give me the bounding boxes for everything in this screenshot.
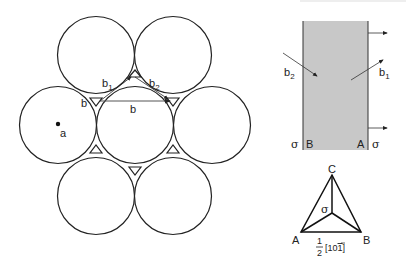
- label-C: C: [328, 163, 336, 175]
- label-sigma-left: σ: [291, 138, 299, 151]
- label-sigma-right: σ: [372, 138, 380, 151]
- fraction-numerator: 1: [317, 236, 322, 246]
- interstice-triangle: [167, 98, 179, 106]
- stacking-fault-panel: b2 b1 σ B A σ: [283, 21, 390, 151]
- label-b2: b2: [284, 66, 295, 81]
- stacking-fault-region: [303, 21, 368, 150]
- thompson-triangle: C A B σ 1 2 [101]: [292, 163, 370, 258]
- circle-top-left: [58, 17, 135, 94]
- label-b1: b1: [379, 66, 390, 81]
- atom-position-a-dot: [56, 122, 60, 126]
- interstice-triangle: [129, 167, 141, 175]
- label-a: a: [60, 127, 67, 139]
- circle-right: [174, 87, 251, 164]
- direction-vector: [101]: [325, 243, 345, 253]
- label-b-center: b: [130, 103, 136, 115]
- label-b-left: b: [81, 97, 87, 109]
- circle-bottom-right: [135, 158, 212, 235]
- interstice-triangle: [90, 98, 102, 106]
- circle-center: [97, 87, 174, 164]
- interstice-triangle: [90, 145, 102, 153]
- diagram-canvas: b1 b2 b b a b2 b1 σ B A σ C A B σ 1 2 [1…: [0, 0, 406, 264]
- triangle-outline: [301, 175, 361, 232]
- label-A: A: [292, 234, 300, 246]
- label-B: B: [363, 234, 370, 246]
- fraction-denominator: 2: [317, 248, 322, 258]
- hex-packing: b1 b2 b b a: [20, 17, 251, 235]
- label-sigma: σ: [321, 203, 329, 216]
- circle-top-right: [135, 17, 212, 94]
- label-A: A: [357, 138, 365, 150]
- label-B: B: [306, 138, 313, 150]
- interstice-triangle: [167, 145, 179, 153]
- circle-bottom-left: [58, 158, 135, 235]
